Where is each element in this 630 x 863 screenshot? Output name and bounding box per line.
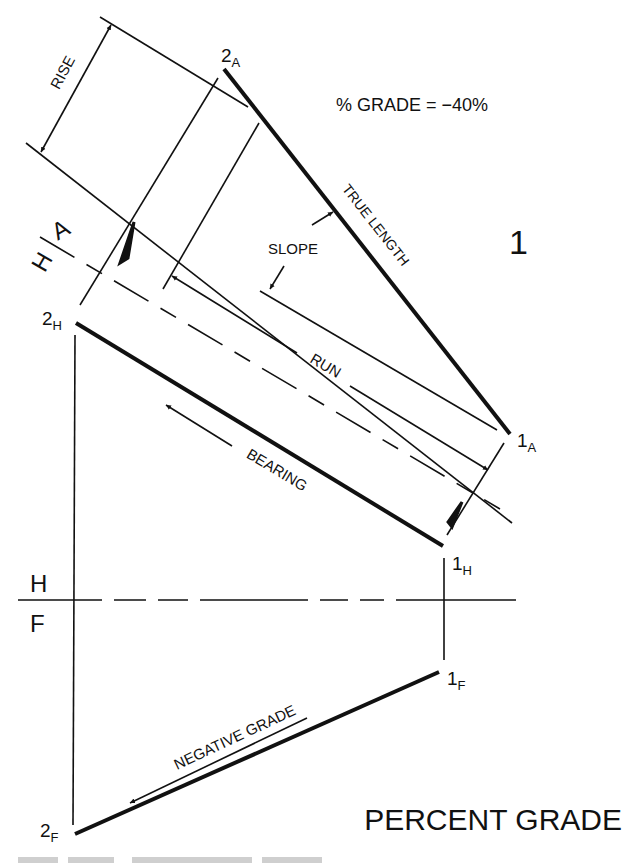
point-1h-label: 1H <box>452 553 472 578</box>
slope-arrow-upper <box>312 212 333 225</box>
projector-2h-2a <box>80 78 218 305</box>
slope-arrow-lower <box>270 266 284 289</box>
bearing-label: BEARING <box>244 445 311 494</box>
point-1a-label: 1A <box>517 430 537 455</box>
run-label: RUN <box>308 350 345 381</box>
point-1f-label: 1F <box>447 668 466 693</box>
fold-label-h: H <box>30 570 47 597</box>
percent-grade-diagram: RISE TRUE LENGTH SLOPE RUN A H BEARING H… <box>0 0 630 863</box>
figure-title: PERCENT GRADE <box>364 803 622 836</box>
fold-label-f: F <box>30 610 45 637</box>
fold-label-h-upper: H <box>26 247 58 276</box>
slope-reference-line <box>163 123 259 289</box>
point-2a-label: 2A <box>221 45 241 70</box>
true-length-label: TRUE LENGTH <box>339 181 412 269</box>
negative-grade-arrow <box>130 718 307 803</box>
point-2f-label: 2F <box>40 820 59 845</box>
projector-2h-2f <box>73 335 75 825</box>
run-dimension-line-right <box>350 386 488 470</box>
slope-label: SLOPE <box>268 240 318 257</box>
bearing-line-2h-1h <box>76 323 443 546</box>
fold-label-a: A <box>47 214 74 245</box>
view-number: 1 <box>509 223 528 261</box>
grade-equation: % GRADE = −40% <box>336 95 488 115</box>
clipped-caption-strip <box>0 853 630 863</box>
run-top-extension-line <box>260 291 497 430</box>
point-2h-label: 2H <box>42 308 62 333</box>
run-dimension-line-left <box>172 276 297 353</box>
true-length-line <box>224 69 510 434</box>
